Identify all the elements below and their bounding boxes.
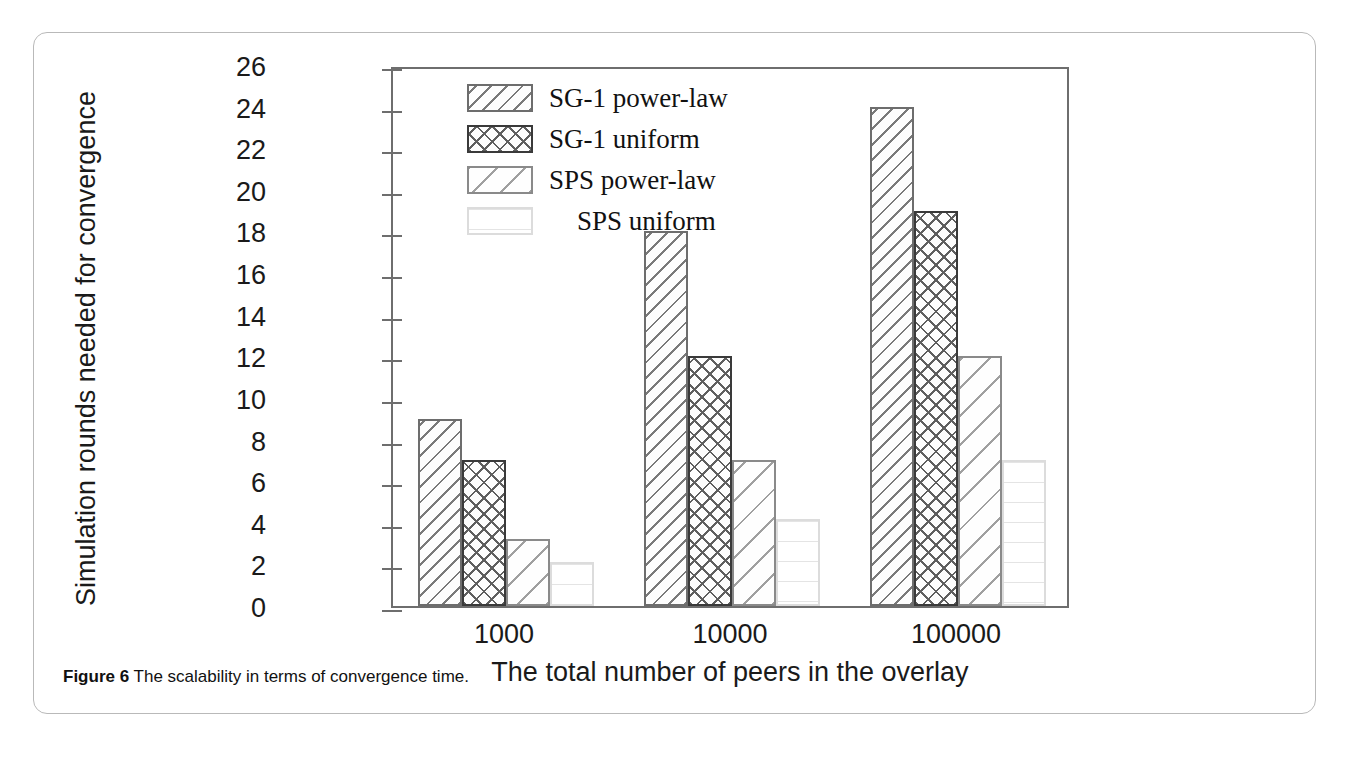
y-axis-tick [393, 152, 402, 154]
y-axis-tick [393, 319, 402, 321]
y-axis-tick-label: 0 [196, 593, 266, 624]
bar [958, 356, 1002, 606]
bar [418, 419, 462, 606]
y-axis-tick-outer [382, 194, 393, 196]
y-axis-tick-outer [382, 402, 393, 404]
x-axis-tick-label: 1000 [404, 619, 604, 650]
y-axis-tick-outer [382, 319, 393, 321]
y-axis-tick [393, 485, 402, 487]
y-axis-tick-label: 20 [196, 176, 266, 207]
y-axis-tick [393, 444, 402, 446]
x-axis-tick-label: 10000 [630, 619, 830, 650]
y-axis-tick-outer [382, 527, 393, 529]
chart-legend: SG-1 power-law SG-1 uniform SPS power-la… [467, 79, 728, 243]
y-axis-tick-label: 2 [196, 551, 266, 582]
bar [550, 562, 594, 606]
y-axis-tick-outer [382, 277, 393, 279]
legend-label-sg1-power-law: SG-1 power-law [549, 83, 728, 114]
y-axis-tick-label: 24 [196, 93, 266, 124]
legend-swatch-sps-uniform-icon [467, 207, 533, 235]
y-axis-tick-outer [382, 444, 393, 446]
y-axis-tick-label: 10 [196, 384, 266, 415]
bar [776, 519, 820, 606]
figure-card: Simulation rounds needed for convergence… [33, 32, 1316, 714]
bar [1002, 460, 1046, 606]
legend-swatch-sg1-uniform-icon [467, 125, 533, 153]
legend-item-sps-uniform: SPS uniform [467, 202, 728, 240]
y-axis-tick-outer [382, 485, 393, 487]
y-axis-tick [393, 69, 402, 71]
y-axis-tick [393, 194, 402, 196]
y-axis-tick [393, 568, 402, 570]
chart-area: Simulation rounds needed for convergence… [34, 33, 1317, 658]
y-axis-tick [393, 111, 402, 113]
y-axis-title: Simulation rounds needed for convergence [71, 69, 102, 629]
y-axis-tick-outer [382, 152, 393, 154]
y-axis-tick-outer [382, 360, 393, 362]
y-axis-tick-label: 6 [196, 468, 266, 499]
y-axis-tick-label: 14 [196, 301, 266, 332]
y-axis-tick [393, 402, 402, 404]
y-axis-tick-outer [382, 235, 393, 237]
plot-inner: SG-1 power-law SG-1 uniform SPS power-la… [393, 69, 1067, 606]
legend-label-sps-power-law: SPS power-law [549, 165, 716, 196]
x-axis-tick-label: 100000 [856, 619, 1056, 650]
legend-item-sg1-power-law: SG-1 power-law [467, 79, 728, 117]
bar [870, 107, 914, 606]
bar [914, 211, 958, 606]
legend-item-sps-power-law: SPS power-law [467, 161, 728, 199]
figure-caption-text: The scalability in terms of convergence … [134, 667, 469, 686]
plot-frame: SG-1 power-law SG-1 uniform SPS power-la… [391, 67, 1069, 608]
y-axis-tick-label: 18 [196, 218, 266, 249]
y-axis-tick [393, 527, 402, 529]
legend-swatch-sps-power-law-icon [467, 166, 533, 194]
bar [506, 539, 550, 606]
y-axis-tick [393, 360, 402, 362]
bar [462, 460, 506, 606]
y-axis-tick-label: 8 [196, 426, 266, 457]
y-axis-tick [393, 277, 402, 279]
y-axis-tick [393, 610, 402, 612]
y-axis-tick-label: 22 [196, 135, 266, 166]
bar [732, 460, 776, 606]
figure-caption: Figure 6 The scalability in terms of con… [63, 667, 469, 687]
y-axis-tick-label: 26 [196, 52, 266, 83]
y-axis-tick-outer [382, 69, 393, 71]
y-axis-tick-outer [382, 610, 393, 612]
bar [644, 231, 688, 606]
y-axis-tick-label: 12 [196, 343, 266, 374]
bar [688, 356, 732, 606]
y-axis-tick-outer [382, 111, 393, 113]
y-axis-tick-outer [382, 568, 393, 570]
legend-item-sg1-uniform: SG-1 uniform [467, 120, 728, 158]
y-axis-tick-label: 4 [196, 509, 266, 540]
y-axis-tick-label: 16 [196, 260, 266, 291]
y-axis-tick [393, 235, 402, 237]
figure-caption-label: Figure 6 [63, 667, 129, 686]
legend-label-sg1-uniform: SG-1 uniform [549, 124, 700, 155]
legend-swatch-sg1-power-law-icon [467, 84, 533, 112]
x-axis-title: The total number of peers in the overlay [391, 657, 1069, 688]
